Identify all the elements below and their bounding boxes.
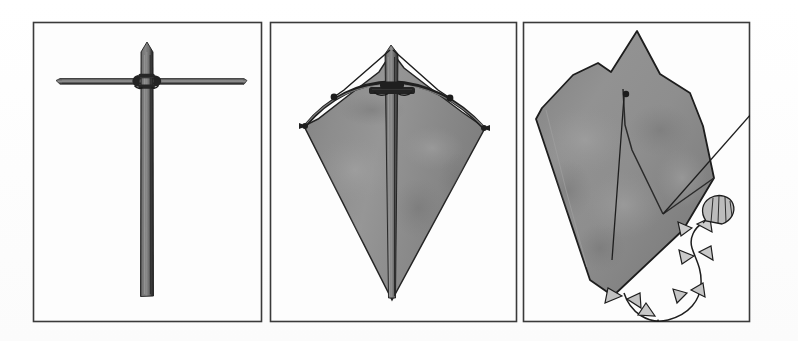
bow-tie-right-icon — [447, 95, 454, 102]
bow-tie-left-icon — [331, 94, 338, 101]
kite-instruction-figure: Cross frame: vertical spine lashed to ho… — [0, 0, 798, 341]
tassel-icon — [703, 196, 734, 224]
panel-1 — [34, 23, 262, 322]
wingtip-right-icon — [481, 125, 490, 131]
wingtip-left-icon — [299, 123, 308, 129]
kite-diagram-svg — [0, 0, 798, 341]
panel-2 — [271, 23, 517, 322]
panel-3 — [524, 23, 783, 334]
vertical-spine-icon — [141, 42, 154, 297]
